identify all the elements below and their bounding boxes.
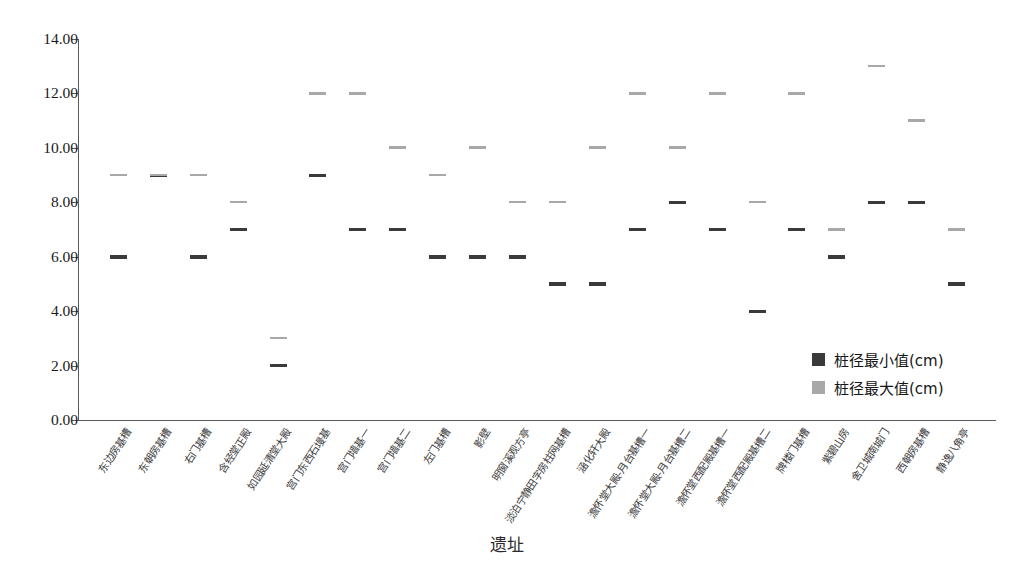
data-marker[interactable] bbox=[948, 228, 965, 231]
data-marker[interactable] bbox=[230, 201, 247, 204]
x-tick-label: 影壁 bbox=[472, 427, 492, 449]
legend-item-max[interactable]: 桩径最大值(cm) bbox=[812, 373, 988, 401]
data-marker[interactable] bbox=[669, 201, 686, 204]
x-tick-label: 紫碧山房 bbox=[821, 427, 852, 466]
legend-label-min: 桩径最小值(cm) bbox=[834, 349, 944, 370]
data-marker[interactable] bbox=[749, 201, 766, 204]
data-marker[interactable] bbox=[349, 228, 366, 231]
data-marker[interactable] bbox=[190, 255, 207, 258]
data-marker[interactable] bbox=[709, 92, 726, 95]
x-axis-title: 遗址 bbox=[0, 531, 1013, 556]
legend-item-min[interactable]: 桩径最小值(cm) bbox=[812, 345, 988, 373]
data-marker[interactable] bbox=[429, 174, 446, 177]
data-marker[interactable] bbox=[828, 255, 845, 258]
cropped-header-text bbox=[60, 0, 760, 6]
data-marker[interactable] bbox=[709, 228, 726, 231]
y-tick-label: 8.00 bbox=[12, 194, 78, 210]
data-marker[interactable] bbox=[549, 282, 566, 285]
y-axis: 14.0012.0010.008.006.004.002.000.00 bbox=[0, 0, 78, 581]
data-marker[interactable] bbox=[230, 228, 247, 231]
data-marker[interactable] bbox=[669, 146, 686, 149]
data-marker[interactable] bbox=[429, 255, 446, 258]
x-axis-line bbox=[78, 420, 996, 421]
data-marker[interactable] bbox=[270, 337, 287, 340]
legend-swatch-min bbox=[812, 353, 825, 366]
x-tick-label: 明窗溪观方亭 bbox=[490, 427, 531, 483]
x-tick-label: 右门基槽 bbox=[182, 427, 213, 466]
data-marker[interactable] bbox=[309, 174, 326, 177]
x-tick-label: 涵化轩大殿 bbox=[576, 427, 612, 475]
data-marker[interactable] bbox=[828, 228, 845, 231]
y-tick-label: 6.00 bbox=[12, 249, 78, 265]
x-tick-label: 澹怀堂西配殿基槽一 bbox=[674, 427, 732, 508]
x-tick-label: 西朝房基槽 bbox=[895, 427, 931, 475]
data-marker[interactable] bbox=[549, 201, 566, 204]
x-tick-label: 澹怀堂大殿-月台基槽二 bbox=[626, 427, 691, 520]
x-tick-label: 静逸八角亭 bbox=[935, 427, 971, 475]
data-marker[interactable] bbox=[150, 174, 167, 177]
data-marker[interactable] bbox=[469, 255, 486, 258]
data-marker[interactable] bbox=[469, 146, 486, 149]
data-marker[interactable] bbox=[270, 364, 287, 367]
data-marker[interactable] bbox=[389, 146, 406, 149]
data-marker[interactable] bbox=[749, 310, 766, 313]
data-marker[interactable] bbox=[589, 146, 606, 149]
x-tick-label: 牌楼门基槽 bbox=[775, 427, 811, 475]
x-tick-label: 澹怀堂大殿-月台基槽一 bbox=[586, 427, 651, 520]
data-marker[interactable] bbox=[309, 92, 326, 95]
data-marker[interactable] bbox=[629, 228, 646, 231]
data-marker[interactable] bbox=[788, 92, 805, 95]
x-tick-label: 宫门墙基二 bbox=[376, 427, 412, 475]
legend-swatch-max bbox=[812, 381, 825, 394]
data-marker[interactable] bbox=[190, 174, 207, 177]
data-marker[interactable] bbox=[509, 255, 526, 258]
x-tick-label: 左门基槽 bbox=[421, 427, 452, 466]
data-marker[interactable] bbox=[788, 228, 805, 231]
x-tick-label: 东朝房基槽 bbox=[137, 427, 173, 475]
y-tick-label: 10.00 bbox=[12, 140, 78, 156]
data-marker[interactable] bbox=[629, 92, 646, 95]
data-marker[interactable] bbox=[349, 92, 366, 95]
data-marker[interactable] bbox=[389, 228, 406, 231]
data-marker[interactable] bbox=[908, 119, 925, 122]
data-marker[interactable] bbox=[110, 255, 127, 258]
x-tick-label: 舍卫城南城门 bbox=[850, 427, 891, 483]
data-marker[interactable] bbox=[868, 65, 885, 68]
y-tick-label: 4.00 bbox=[12, 303, 78, 319]
x-tick-label: 淡泊宁静田字房柱网基槽 bbox=[503, 427, 572, 525]
y-tick-label: 12.00 bbox=[12, 85, 78, 101]
x-tick-label: 含经堂正殿 bbox=[216, 427, 252, 475]
chart-page: 14.0012.0010.008.006.004.002.000.00 东边房基… bbox=[0, 0, 1013, 581]
x-tick-label: 如园延清堂大殿 bbox=[245, 427, 292, 491]
data-marker[interactable] bbox=[589, 282, 606, 285]
y-tick-label: 0.00 bbox=[12, 412, 78, 428]
data-marker[interactable] bbox=[509, 201, 526, 204]
data-marker[interactable] bbox=[908, 201, 925, 204]
data-marker[interactable] bbox=[948, 282, 965, 285]
x-tick-label: 宫门墙基一 bbox=[336, 427, 372, 475]
x-tick-label: 澹怀堂西配殿基槽二 bbox=[713, 427, 771, 508]
y-tick-label: 2.00 bbox=[12, 358, 78, 374]
data-marker[interactable] bbox=[868, 201, 885, 204]
x-tick-label: 宫门东西石墁基 bbox=[285, 427, 332, 491]
x-tick-label: 东边房基槽 bbox=[97, 427, 133, 475]
data-marker[interactable] bbox=[110, 174, 127, 177]
legend: 桩径最小值(cm) 桩径最大值(cm) bbox=[812, 345, 988, 401]
legend-label-max: 桩径最大值(cm) bbox=[834, 377, 944, 398]
y-tick-label: 14.00 bbox=[12, 31, 78, 47]
